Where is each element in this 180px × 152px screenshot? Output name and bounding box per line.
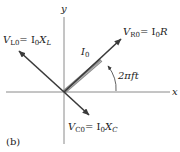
panel-label: (b) — [6, 136, 20, 147]
current-band-highlight — [66, 61, 101, 91]
phasor-diagram: x y I0 VR0= I0R VL0= I0XL VC0= I0XC 2πft — [0, 0, 180, 152]
vc0-label: VC0= I0XC — [68, 121, 118, 134]
angle-label: 2πft — [117, 70, 140, 81]
vc0-arrow — [64, 92, 89, 115]
current-phasor: I0 — [64, 46, 101, 92]
angle-arc — [108, 66, 116, 91]
current-label: I0 — [80, 46, 89, 59]
vl0-arrow — [19, 51, 64, 92]
vc0-phasor: VC0= I0XC — [64, 92, 118, 134]
y-axis-label: y — [60, 3, 67, 14]
vr0-arrow — [64, 39, 121, 92]
x-axis-label: x — [172, 86, 178, 97]
vl0-label: VL0= I0XL — [3, 34, 51, 47]
angle-indicator: 2πft — [108, 66, 140, 91]
vr0-label: VR0= I0R — [123, 26, 168, 39]
vr0-phasor: VR0= I0R — [64, 26, 168, 92]
vl0-phasor: VL0= I0XL — [3, 34, 64, 92]
